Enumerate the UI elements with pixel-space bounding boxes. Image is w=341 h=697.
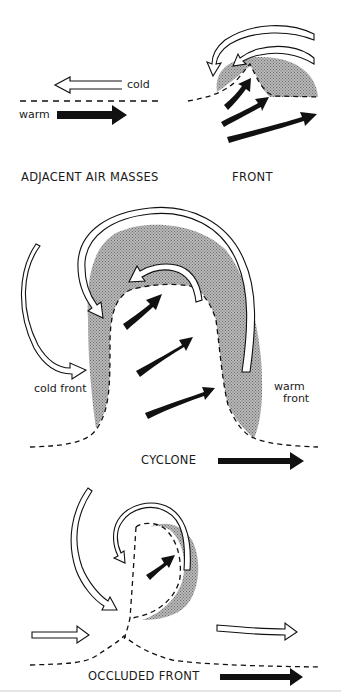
- movement-arrow-icon: [220, 668, 303, 686]
- cloud-zone-shading: [142, 524, 198, 620]
- warm-air-arrow-icon: [146, 555, 175, 580]
- panel-front: [188, 26, 320, 143]
- warm-front-label-line1: warm: [274, 381, 305, 392]
- warm-front-label-line2: front: [283, 393, 309, 404]
- cloud-zone-shading: [217, 57, 318, 97]
- warm-air-arrow-icon: [57, 105, 127, 125]
- front-boundary-line: [30, 636, 322, 667]
- caption-front: FRONT: [232, 172, 273, 184]
- cyclone-diagram: [0, 0, 341, 697]
- cold-air-label: cold: [127, 79, 150, 90]
- cold-front-label: cold front: [34, 383, 86, 394]
- movement-arrow-icon: [218, 452, 304, 470]
- caption-cyclone: CYCLONE: [141, 455, 196, 467]
- occlusion-line: [124, 527, 136, 640]
- caption-adjacent-air-masses: ADJACENT AIR MASSES: [21, 172, 159, 184]
- caption-occluded-front: OCCLUDED FRONT: [88, 671, 199, 683]
- cold-air-arrow-icon: [55, 77, 122, 93]
- warm-air-label: warm: [19, 109, 50, 120]
- panel-cyclone: [21, 207, 318, 470]
- panel-occluded-front: [30, 488, 322, 686]
- page-bottom-divider: [0, 690, 341, 692]
- warm-air-arrow-icon: [123, 294, 215, 419]
